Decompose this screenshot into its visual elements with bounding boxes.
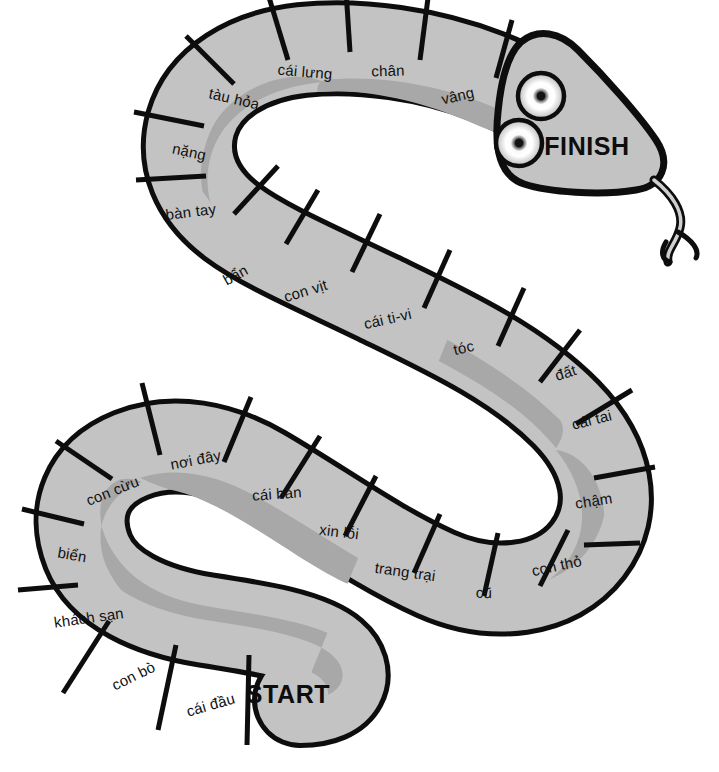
segment-label-cu: cũ xyxy=(476,584,493,601)
segment-label-cai-dau: cái đầu xyxy=(184,689,237,719)
snake-pupil-lower xyxy=(515,139,523,147)
snake-pupil-upper xyxy=(537,92,545,100)
divider xyxy=(63,621,109,693)
snake-tongue-icon xyxy=(654,180,697,262)
segment-label-cai-ban: cái bàn xyxy=(251,483,302,503)
segment-label-chan: chân xyxy=(371,61,405,79)
start-label: START xyxy=(246,680,330,708)
divider xyxy=(584,543,640,545)
segment-label-con-bo: con bò xyxy=(109,658,158,694)
snake-head-shape xyxy=(497,34,664,193)
game-board-canvas: cái đầu con bò khách sạn biển con cừu nơ… xyxy=(0,0,719,772)
snake-board-game: cái đầu con bò khách sạn biển con cừu nơ… xyxy=(0,0,719,772)
finish-label: FINISH xyxy=(544,132,630,160)
